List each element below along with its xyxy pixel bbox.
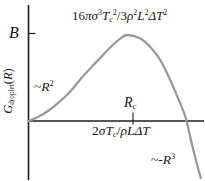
barrier-height-formula-label: 16πσ3Tc2/3ρ2L2ΔT2 [72, 9, 167, 24]
formula-token: c [133, 101, 137, 111]
formula-token: ( [1, 80, 15, 84]
r-squared-label: ~R2 [34, 80, 54, 94]
formula-token: 16 [72, 8, 85, 23]
formula-token: G [1, 105, 15, 114]
critical-radius-formula-label: 2σTc/ρLΔT [92, 124, 150, 140]
nucleation-energy-figure: Gdroplet(R) B 16πσ3Tc2/3ρ2L2ΔT2 ~R2 Rc 2… [0, 0, 205, 181]
formula-token: 3 [171, 152, 175, 161]
b-tick-label: B [9, 25, 19, 41]
formula-token: ρLΔT [120, 123, 149, 138]
formula-token: B [9, 24, 19, 41]
formula-token: ) [1, 68, 15, 72]
formula-token: σT [99, 123, 113, 138]
r-cubed-label: ~-R3 [151, 153, 175, 167]
critical-radius-label: Rc [124, 96, 136, 111]
formula-token: R [41, 79, 49, 94]
formula-token: R [124, 95, 133, 110]
formula-token: 2 [163, 8, 167, 17]
formula-token: 2 [50, 79, 54, 88]
formula-token: /3 [117, 8, 127, 23]
formula-token: 2 [92, 123, 99, 138]
formula-token: droplet [8, 84, 16, 105]
formula-token: ~- [151, 152, 163, 167]
formula-token: R [163, 152, 171, 167]
y-axis-label: Gdroplet(R) [2, 56, 18, 126]
formula-token: πσ [85, 8, 98, 23]
formula-token: ΔT [148, 8, 163, 23]
formula-token: R [1, 72, 15, 80]
